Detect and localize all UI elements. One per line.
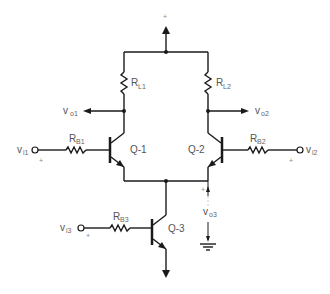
svg-text:i1: i1 bbox=[23, 149, 29, 156]
svg-text:v: v bbox=[63, 105, 68, 116]
svg-text:B3: B3 bbox=[120, 216, 129, 223]
svg-text:i3: i3 bbox=[66, 227, 72, 234]
transistor-q2: Q-2 bbox=[188, 118, 222, 181]
resistor-rl2: R L2 bbox=[205, 52, 231, 118]
emitter-bus bbox=[124, 179, 208, 209]
svg-text:+: + bbox=[201, 186, 205, 193]
input-vi1: v i1 + R B1 bbox=[17, 133, 110, 164]
supply-label: + bbox=[163, 13, 167, 20]
svg-text:B1: B1 bbox=[76, 138, 85, 145]
svg-text:i2: i2 bbox=[312, 149, 318, 156]
svg-text:o3: o3 bbox=[209, 211, 217, 218]
svg-text:+: + bbox=[39, 157, 43, 164]
svg-text:o2: o2 bbox=[261, 110, 269, 117]
svg-text:v: v bbox=[17, 144, 22, 155]
svg-text:v: v bbox=[60, 222, 65, 233]
svg-text:L2: L2 bbox=[223, 83, 231, 90]
output-vo1: v o1 bbox=[63, 105, 126, 117]
svg-text:o1: o1 bbox=[70, 110, 78, 117]
resistor-rl1: R L1 bbox=[121, 52, 146, 118]
transistor-q1: Q-1 bbox=[110, 118, 147, 181]
svg-text:B2: B2 bbox=[257, 138, 266, 145]
circuit-svg: + R L1 R L2 v o1 v o2 bbox=[0, 0, 330, 294]
q2-label: Q-2 bbox=[188, 144, 205, 155]
svg-text:L1: L1 bbox=[138, 83, 146, 90]
input-vi3: v i3 + R B3 bbox=[60, 211, 152, 239]
svg-text:v: v bbox=[306, 144, 311, 155]
svg-text:+: + bbox=[289, 157, 293, 164]
output-vo2: v o2 bbox=[206, 105, 269, 117]
output-vo3: + v o3 bbox=[200, 181, 217, 250]
svg-text:+: + bbox=[86, 232, 90, 239]
svg-text:v: v bbox=[203, 206, 208, 217]
transistor-q3: Q-3 bbox=[152, 209, 185, 278]
svg-text:v: v bbox=[255, 105, 260, 116]
q1-label: Q-1 bbox=[130, 144, 147, 155]
input-vi2: v i2 + R B2 bbox=[222, 133, 318, 164]
supply-node: + bbox=[124, 13, 208, 54]
q3-label: Q-3 bbox=[168, 223, 185, 234]
circuit-diagram: + R L1 R L2 v o1 v o2 bbox=[0, 0, 330, 294]
